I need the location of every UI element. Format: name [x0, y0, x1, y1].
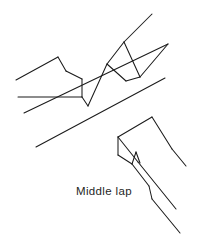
lower-board-top-back-edge: [118, 117, 152, 137]
lower-board-near-face-edge: [132, 164, 149, 186]
lower-board-group: [118, 117, 186, 233]
upper-board-far-edge: [24, 44, 168, 113]
middle-lap-figure: Middle lap: [0, 0, 198, 250]
lower-board-top-near-edge: [118, 137, 138, 162]
upper-board-group: [16, 14, 168, 147]
upper-lap-block-top-near-edge: [107, 64, 126, 81]
lower-board-bottom-long-edge: [152, 199, 180, 233]
upper-board-middle-edge-right: [140, 44, 168, 77]
upper-board-notch-floor-left: [66, 71, 82, 79]
lower-board-end-top-edge: [152, 117, 172, 149]
upper-lap-block-top-back-edge: [107, 42, 124, 64]
upper-board-top-edge-left: [16, 57, 58, 80]
upper-lap-block-near-right-edge: [126, 77, 140, 81]
lower-board-near-face-crease: [138, 162, 176, 209]
lower-board-end-bottom-edge: [118, 155, 132, 164]
upper-board-underside-edge: [36, 78, 165, 147]
lower-board-lap-step: [149, 186, 152, 199]
upper-board-top-edge-right: [124, 14, 152, 42]
upper-board-near-edge-left-lower: [82, 97, 88, 106]
upper-lap-block-left-face: [88, 64, 107, 106]
lower-board-upper-right-edge: [172, 149, 186, 166]
middle-lap-drawing: [0, 0, 198, 250]
upper-board-left-shoulder: [58, 57, 66, 71]
upper-lap-block-right-face: [124, 42, 140, 77]
